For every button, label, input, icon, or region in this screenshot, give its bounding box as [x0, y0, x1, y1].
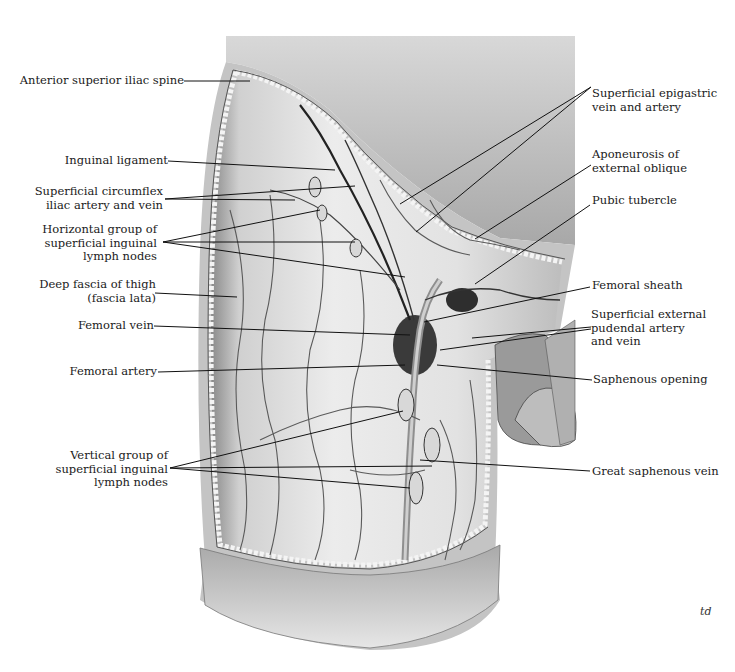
horizontal-node-1 — [309, 177, 321, 197]
horizontal-node-2 — [317, 205, 327, 221]
artist-signature: td — [700, 605, 711, 618]
label-superficial-epigastric: Superficial epigastric vein and artery — [592, 87, 717, 114]
vertical-node-1 — [398, 389, 414, 421]
label-femoral-artery: Femoral artery — [70, 365, 157, 379]
label-aponeurosis-external-oblique: Aponeurosis of external oblique — [592, 148, 687, 175]
label-deep-fascia-of-thigh: Deep fascia of thigh (fascia lata) — [39, 278, 156, 305]
label-great-saphenous-vein: Great saphenous vein — [592, 465, 719, 479]
label-femoral-vein: Femoral vein — [78, 319, 154, 333]
label-anterior-superior-iliac-spine: Anterior superior iliac spine — [20, 74, 184, 88]
vertical-node-3 — [409, 472, 423, 504]
label-femoral-sheath: Femoral sheath — [592, 279, 683, 293]
label-superficial-external-pudendal: Superficial external pudendal artery and… — [591, 308, 706, 349]
label-saphenous-opening: Saphenous opening — [593, 373, 708, 387]
label-inguinal-ligament: Inguinal ligament — [65, 154, 168, 168]
label-pubic-tubercle: Pubic tubercle — [592, 194, 677, 208]
label-superficial-circumflex-iliac: Superficial circumflex iliac artery and … — [35, 185, 163, 212]
vertical-node-2 — [424, 428, 440, 462]
label-vertical-group-nodes: Vertical group of superficial inguinal l… — [56, 449, 168, 490]
label-horizontal-group-nodes: Horizontal group of superficial inguinal… — [42, 223, 157, 264]
anatomy-figure: td Anterior superior iliac spine Inguina… — [0, 0, 735, 672]
